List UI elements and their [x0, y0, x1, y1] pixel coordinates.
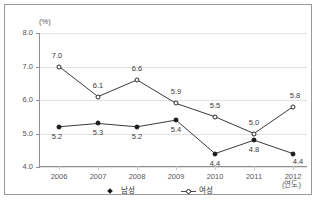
- chart-frame: (%) 4.05.06.07.08.0 20062007200820092010…: [4, 4, 312, 195]
- gridline: [39, 167, 307, 168]
- data-label: 5.2: [52, 133, 62, 141]
- data-label: 5.4: [171, 126, 181, 134]
- data-point: [135, 77, 140, 82]
- data-label: 6.6: [132, 65, 142, 73]
- data-label: 4.8: [249, 146, 259, 154]
- y-tick-label: 7.0: [23, 63, 33, 71]
- data-label: 5.9: [171, 88, 181, 96]
- data-label: 4.4: [293, 158, 303, 166]
- x-tick-label: 2011: [246, 173, 262, 181]
- y-tick-label: 6.0: [23, 96, 33, 104]
- data-point: [174, 101, 179, 106]
- series-lines: [39, 33, 307, 167]
- data-label: 5.2: [132, 133, 142, 141]
- data-label: 7.0: [52, 52, 62, 60]
- filled-diamond-icon: [105, 188, 118, 195]
- y-tick-label: 5.0: [23, 130, 33, 138]
- data-point: [135, 124, 140, 129]
- y-tick-label: 8.0: [23, 29, 33, 37]
- data-point: [291, 151, 296, 156]
- data-label: 5.3: [93, 129, 103, 137]
- data-point: [252, 131, 257, 136]
- legend-item-male[interactable]: 남성: [105, 187, 135, 195]
- data-point: [213, 114, 218, 119]
- legend-label-female: 여성: [199, 187, 213, 195]
- x-tick-label: 2008: [129, 173, 146, 181]
- legend-label-male: 남성: [121, 187, 135, 195]
- data-point: [252, 138, 257, 143]
- data-point: [291, 104, 296, 109]
- legend-item-female[interactable]: 여성: [181, 187, 213, 195]
- y-tick-label: 4.0: [23, 163, 33, 171]
- data-label: 5.0: [249, 119, 259, 127]
- data-label: 6.1: [93, 82, 103, 90]
- data-label: 5.5: [210, 102, 220, 110]
- data-label: 4.4: [210, 160, 220, 168]
- y-axis-unit-label: (%): [39, 18, 51, 26]
- x-tick-label: 2010: [207, 173, 224, 181]
- x-tick-label: 2009: [168, 173, 185, 181]
- y-tick-mark: [36, 167, 40, 168]
- x-tick-label: 2006: [51, 173, 68, 181]
- data-point: [96, 94, 101, 99]
- data-point: [57, 64, 62, 69]
- data-point: [174, 118, 179, 123]
- data-label: 5.8: [290, 92, 300, 100]
- open-circle-icon: [181, 188, 196, 195]
- data-point: [57, 124, 62, 129]
- data-point: [96, 121, 101, 126]
- chart-legend: 남성 여성: [5, 185, 313, 197]
- plot-area: 4.05.06.07.08.0 200620072008200920102011…: [39, 33, 307, 167]
- x-tick-label: 2007: [90, 173, 107, 181]
- data-point: [213, 151, 218, 156]
